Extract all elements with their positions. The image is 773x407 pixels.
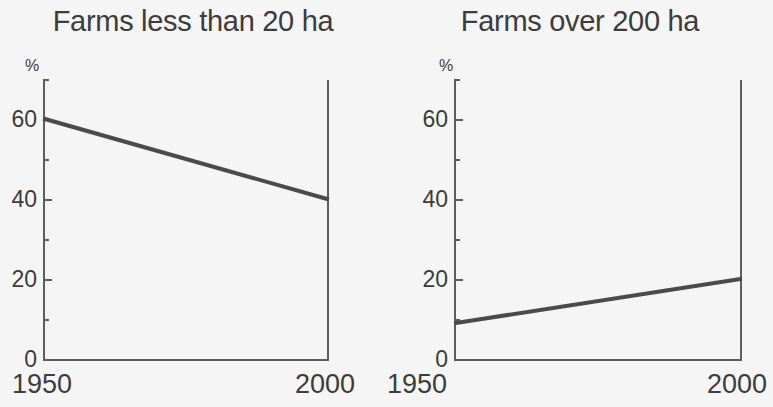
data-series-line: [0, 0, 386, 407]
chart-panel-farms-less-than-20ha: Farms less than 20 ha % 60 40 20 0: [0, 0, 386, 407]
chart-panel-farms-over-200ha: Farms over 200 ha % 60 40 20 0 1950 2000: [387, 0, 773, 407]
x-tick-label-1950: 1950: [12, 371, 72, 398]
x-tick-label-2000: 2000: [295, 371, 355, 398]
data-series-line: [387, 0, 773, 407]
x-tick-label-2000: 2000: [707, 371, 767, 398]
plot-area: 60 40 20 0 1950 2000: [0, 0, 386, 407]
plot-area: 60 40 20 0 1950 2000: [387, 0, 773, 407]
x-tick-label-1950: 1950: [387, 371, 447, 398]
figure-canvas: Farms less than 20 ha % 60 40 20 0: [0, 0, 773, 407]
